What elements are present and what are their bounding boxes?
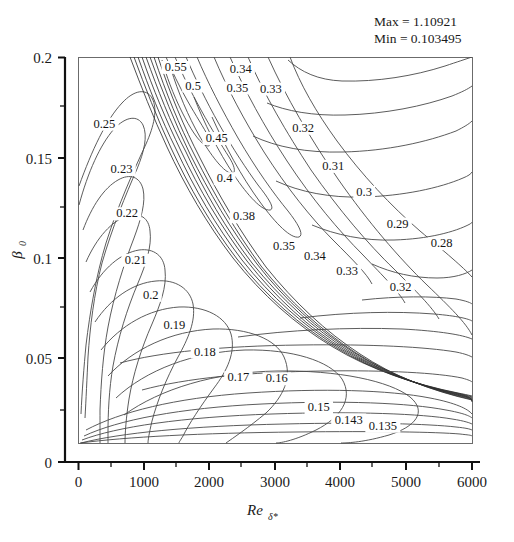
contour-line: [138, 57, 472, 398]
contour-line: [84, 402, 472, 436]
y-tick-label: 0.15: [26, 151, 52, 167]
contour-line: [288, 57, 472, 81]
contour-level-label: 0.32: [390, 280, 412, 294]
contour-level-label: 0.33: [336, 264, 358, 278]
x-tick-label: 3000: [260, 474, 290, 490]
contour-level-label: 0.38: [233, 209, 255, 223]
contour-level-label: 0.135: [369, 419, 397, 433]
contour-level-label: 0.3: [356, 185, 372, 199]
y-tick-label: 0: [45, 455, 53, 471]
contour-level-label: 0.4: [217, 171, 233, 185]
contour-figure: Max = 1.10921 Min = 0.103495: [0, 0, 514, 542]
contour-line: [267, 86, 472, 115]
y-tick-label: 0.05: [26, 351, 52, 367]
y-axis-title-sub: 0: [17, 241, 28, 246]
contour-plot-svg: Max = 1.10921 Min = 0.103495: [0, 0, 514, 542]
contour-line: [238, 328, 472, 339]
contour-level-label: 0.17: [227, 370, 249, 384]
x-axis-title-main: Re: [246, 502, 263, 518]
x-axis-title-sub: δ*: [268, 511, 278, 522]
contour-level-label: 0.22: [116, 206, 138, 220]
contour-level-label: 0.18: [194, 345, 216, 359]
contour-level-label: 0.16: [266, 371, 288, 385]
contour-level-label: 0.23: [111, 162, 133, 176]
contour-level-label: 0.143: [335, 413, 363, 427]
contour-level-label: 0.2: [143, 288, 159, 302]
contour-level-label: 0.34: [304, 249, 327, 263]
x-tick-label: 4000: [325, 474, 355, 490]
contour-line: [362, 297, 472, 304]
contour-line: [230, 57, 405, 303]
x-axis: 0 1000 2000 3000 4000 5000 6000 Re δ*: [65, 462, 487, 522]
contour-level-label: 0.32: [292, 121, 314, 135]
contour-level-label: 0.55: [165, 60, 187, 74]
x-tick-label: 0: [75, 474, 83, 490]
contour-level-label: 0.33: [260, 82, 282, 96]
x-tick-label: 5000: [391, 474, 421, 490]
min-value-label: Min = 0.103495: [374, 31, 462, 46]
y-axis-title: β 0: [9, 241, 28, 260]
contour-level-label: 0.35: [226, 81, 248, 95]
contour-line: [300, 312, 472, 321]
contour-level-label: 0.31: [322, 159, 344, 173]
contour-level-label: 0.28: [431, 236, 453, 250]
y-tick-label: 0.1: [33, 251, 52, 267]
y-tick-label: 0.2: [33, 50, 52, 66]
y-axis: 0.2 0.15 0.1 0.05 0 β 0: [9, 50, 65, 471]
contour-level-label: 0.34: [230, 62, 253, 76]
contour-line: [82, 413, 472, 440]
x-axis-title: Re δ*: [246, 502, 278, 522]
contour-level-label: 0.25: [93, 117, 115, 131]
contour-level-label: 0.35: [273, 239, 295, 253]
y-axis-title-main: β: [9, 251, 25, 260]
contour-level-label: 0.45: [206, 131, 228, 145]
contour-line: [86, 215, 150, 443]
contour-line: [134, 57, 472, 397]
contour-line: [372, 264, 472, 278]
x-tick-label: 6000: [457, 474, 487, 490]
contour-line: [120, 345, 472, 363]
contour-level-label: 0.19: [163, 318, 185, 332]
contour-level-label: 0.29: [387, 217, 409, 231]
contour-level-label: 0.21: [125, 253, 147, 267]
max-value-label: Max = 1.10921: [374, 14, 457, 29]
contour-level-label: 0.5: [185, 79, 201, 93]
contour-line: [253, 121, 472, 152]
contour-level-label: 0.15: [308, 400, 330, 414]
x-tick-label: 2000: [194, 474, 224, 490]
extreme-values-annotation: Max = 1.10921 Min = 0.103495: [374, 14, 462, 46]
x-tick-label: 1000: [129, 474, 159, 490]
contour-line: [142, 371, 472, 390]
contour-line: [80, 432, 472, 443]
